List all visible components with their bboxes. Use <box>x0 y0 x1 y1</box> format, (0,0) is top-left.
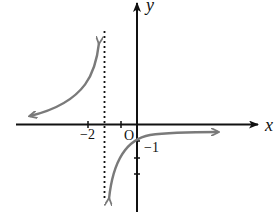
function-graph-diagram: y x O −2 −1 <box>0 0 280 221</box>
curve-left-branch <box>30 43 99 116</box>
y-tick-label-neg1: −1 <box>144 141 159 155</box>
x-tick-label-neg2: −2 <box>80 128 95 142</box>
y-axis-label: y <box>146 0 154 14</box>
graph-svg <box>0 0 280 221</box>
origin-label: O <box>124 129 134 143</box>
x-axis-label: x <box>265 116 273 134</box>
